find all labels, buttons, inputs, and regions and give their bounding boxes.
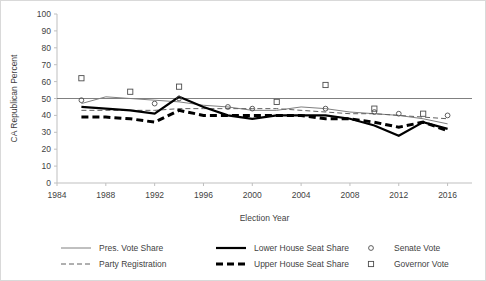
series-line (81, 110, 447, 130)
marker-square (323, 82, 328, 87)
x-tick-label: 1996 (194, 190, 213, 200)
x-tick-label: 2012 (389, 190, 408, 200)
legend-item-party-registration: Party Registration (61, 259, 167, 269)
legend-marker-circle-icon (369, 246, 374, 251)
y-tick-label: 20 (42, 144, 52, 154)
x-tick-label: 2004 (292, 190, 311, 200)
election-percent-line-chart: 0102030405060708090100198419881992199620… (1, 1, 485, 280)
legend-item-label: Party Registration (99, 259, 167, 269)
series-senate-vote (79, 96, 450, 118)
series-lower-house-seat-share (81, 97, 447, 136)
legend-item-label: Upper House Seat Share (254, 259, 349, 269)
x-tick-label: 1984 (48, 190, 67, 200)
y-tick-label: 40 (42, 110, 52, 120)
legend-item-governor-vote: Governor Vote (368, 259, 449, 269)
y-tick-label: 10 (42, 161, 52, 171)
series-line (81, 97, 447, 136)
marker-circle (445, 113, 450, 118)
legend-item-label: Pres. Vote Share (99, 243, 164, 253)
y-tick-label: 90 (42, 26, 52, 36)
marker-circle (152, 101, 157, 106)
legend-item-label: Senate Vote (394, 243, 441, 253)
legend-item-lower-house-seat-share: Lower House Seat Share (216, 243, 349, 253)
marker-square (274, 99, 279, 104)
chart-figure: 0102030405060708090100198419881992199620… (0, 0, 486, 281)
legend-item-upper-house-seat-share: Upper House Seat Share (216, 259, 349, 269)
legend-item-label: Governor Vote (394, 259, 449, 269)
x-axis-title: Election Year (240, 213, 290, 223)
y-tick-label: 0 (46, 178, 51, 188)
y-tick-label: 100 (37, 9, 51, 19)
y-tick-label: 70 (42, 60, 52, 70)
series-upper-house-seat-share (81, 110, 447, 130)
legend-marker-square-icon (368, 261, 373, 266)
legend-item-pres-vote-share: Pres. Vote Share (61, 243, 164, 253)
x-tick-label: 1992 (145, 190, 164, 200)
y-tick-label: 30 (42, 127, 52, 137)
y-tick-label: 80 (42, 43, 52, 53)
marker-square (421, 111, 426, 116)
y-tick-label: 60 (42, 77, 52, 87)
marker-square (176, 84, 181, 89)
marker-square (128, 89, 133, 94)
y-tick-label: 50 (42, 94, 52, 104)
x-tick-label: 1988 (96, 190, 115, 200)
x-tick-label: 2008 (340, 190, 359, 200)
marker-square (79, 76, 84, 81)
legend-item-label: Lower House Seat Share (254, 243, 349, 253)
y-axis-title: CA Republican Percent (9, 54, 19, 143)
x-tick-label: 2016 (438, 190, 457, 200)
x-tick-label: 2000 (243, 190, 262, 200)
legend-item-senate-vote: Senate Vote (369, 243, 441, 253)
